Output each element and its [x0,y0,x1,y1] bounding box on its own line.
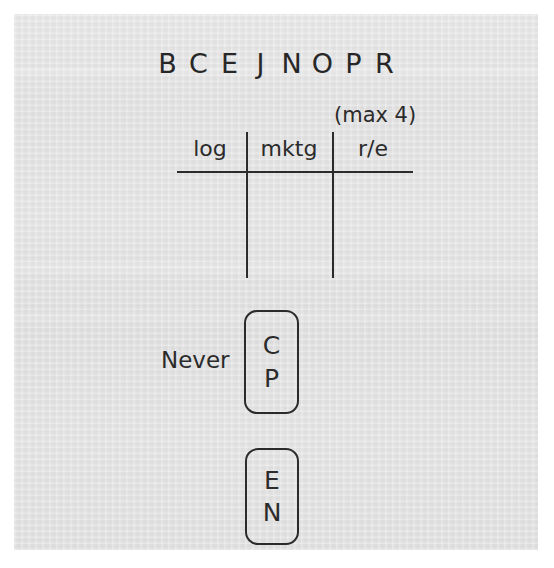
pair-box-item: C [263,333,280,358]
initial-letter: J [245,48,276,79]
sketch-page: B C E J N O P R (max 4) log mktg r/e Nev… [0,0,554,568]
never-label: Never [161,347,230,373]
initial-letter: O [307,48,338,79]
initial-letter: B [152,48,183,79]
initial-letter: N [276,48,307,79]
initial-letter: C [183,48,214,79]
initial-letter: P [338,48,369,79]
table-column-divider-2 [332,132,334,278]
column-header-mktg: mktg [250,136,328,161]
table-column-divider-1 [246,132,248,278]
max-count-note: (max 4) [334,103,416,127]
column-header-log: log [177,136,243,161]
never-pair-box: C P [244,310,299,414]
initial-letter: R [369,48,400,79]
second-pair-box: E N [245,448,299,545]
initial-letter: E [214,48,245,79]
column-header-re: r/e [336,136,410,161]
initials-row: B C E J N O P R [14,48,538,79]
pair-box-item: P [264,366,279,391]
paper-sheet: B C E J N O P R (max 4) log mktg r/e Nev… [14,14,538,550]
pair-box-item: N [263,500,282,525]
pair-box-item: E [264,468,280,493]
table-header-rule [177,171,413,173]
